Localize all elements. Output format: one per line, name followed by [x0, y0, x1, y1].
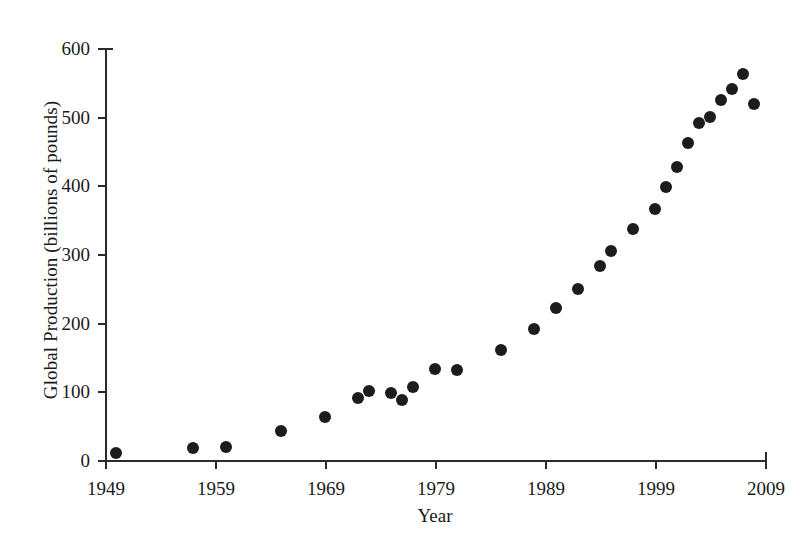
- x-tick-label: 1969: [307, 478, 345, 500]
- data-point: [693, 117, 705, 129]
- scatter-chart-figure: Global Production (billions of pounds) 0…: [0, 0, 809, 552]
- y-tick: 300: [98, 254, 106, 256]
- data-point: [396, 394, 408, 406]
- x-tick: 2009: [765, 460, 767, 469]
- data-point: [550, 302, 562, 314]
- y-tick: 600: [98, 48, 106, 50]
- x-tick-label: 2009: [747, 478, 785, 500]
- x-tick: 1959: [215, 460, 217, 469]
- y-tick-label: 0: [81, 450, 91, 472]
- data-point: [275, 425, 287, 437]
- x-tick: 1979: [435, 460, 437, 469]
- y-tick-label: 100: [62, 381, 91, 403]
- data-point: [671, 161, 683, 173]
- data-point: [220, 441, 232, 453]
- y-tick-label: 200: [62, 312, 91, 334]
- data-point: [363, 385, 375, 397]
- y-tick-label: 300: [62, 244, 91, 266]
- data-point: [594, 260, 606, 272]
- data-point: [748, 98, 760, 110]
- y-tick-label: 500: [62, 106, 91, 128]
- data-point: [319, 411, 331, 423]
- data-point: [572, 283, 584, 295]
- data-point: [649, 203, 661, 215]
- data-point: [352, 392, 364, 404]
- y-tick: 500: [98, 117, 106, 119]
- data-point: [605, 245, 617, 257]
- x-tick-label: 1949: [87, 478, 125, 500]
- data-point: [110, 447, 122, 459]
- data-point: [660, 181, 672, 193]
- x-tick: 1949: [105, 460, 107, 469]
- data-point: [627, 223, 639, 235]
- data-point: [715, 94, 727, 106]
- data-point: [385, 387, 397, 399]
- y-tick: 100: [98, 391, 106, 393]
- data-point: [528, 323, 540, 335]
- x-tick-label: 1999: [637, 478, 675, 500]
- y-axis-top-cap: [105, 48, 113, 50]
- x-tick: 1999: [655, 460, 657, 469]
- x-tick-label: 1979: [417, 478, 455, 500]
- data-point: [682, 137, 694, 149]
- x-axis-title: Year: [105, 505, 765, 527]
- data-point: [451, 364, 463, 376]
- data-point: [704, 111, 716, 123]
- x-tick: 1989: [545, 460, 547, 469]
- y-tick: 400: [98, 185, 106, 187]
- data-point: [429, 363, 441, 375]
- x-tick-label: 1989: [527, 478, 565, 500]
- x-tick: 1969: [325, 460, 327, 469]
- data-point: [737, 68, 749, 80]
- plot-area: 0100200300400500600 19491959196919791989…: [105, 48, 765, 462]
- data-point: [495, 344, 507, 356]
- data-point: [726, 83, 738, 95]
- x-tick-label: 1959: [197, 478, 235, 500]
- y-tick: 200: [98, 323, 106, 325]
- data-point: [187, 442, 199, 454]
- y-tick-label: 600: [62, 38, 91, 60]
- y-tick-label: 400: [62, 175, 91, 197]
- data-point: [407, 381, 419, 393]
